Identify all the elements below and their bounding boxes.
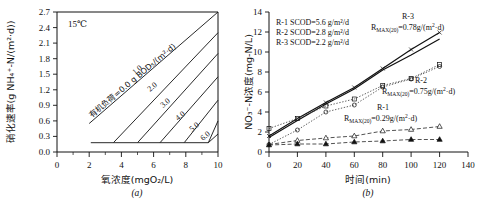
panel-b-annot-r3-rate: RMAX(20)=0.78g/(m2·d) xyxy=(371,22,444,34)
panel-b-ytick-0: 0 xyxy=(258,147,263,157)
panel-a-xticks: 0 2 4 6 8 10 xyxy=(55,152,223,170)
panel-a-label-4: 4.0 xyxy=(174,109,187,122)
panel-a-xtick-1: 2 xyxy=(87,160,92,170)
panel-a-ytick-0: 0.0 xyxy=(39,147,51,157)
figure-container: 0.0 0.3 0.6 0.9 1.2 1.5 1.8 2.1 2.4 2.7 xyxy=(0,0,483,199)
panel-a-ytick-1: 0.3 xyxy=(39,131,51,141)
panel-b-ytick-1: 2 xyxy=(258,127,263,137)
panel-a-xaxis-label: 氧浓度(mgO₂/L) xyxy=(101,174,173,185)
panel-b-annotation-r2: R-2 RMAX(20)=0.75g/(m2·d) xyxy=(382,76,455,98)
panel-b-plot: 0 2 4 6 8 10 12 14 0 20 4 xyxy=(243,0,483,199)
panel-a-line-labels: 有机负荷=0.0 g BOD₅/(m²·d) 1.0 2.0 3.0 4.0 5… xyxy=(87,41,212,142)
panel-a-xtick-2: 4 xyxy=(119,160,124,170)
panel-a-letter: (a) xyxy=(131,188,142,199)
panel-b-xaxis-label: 时间(min) xyxy=(345,174,390,185)
panel-a-ytick-3: 0.9 xyxy=(39,100,51,110)
panel-a-ytick-4: 1.2 xyxy=(39,85,50,95)
panel-a-xtick-0: 0 xyxy=(55,160,60,170)
panel-a-xtick-4: 8 xyxy=(184,160,189,170)
panel-b-xtick-6: 120 xyxy=(433,160,447,170)
panel-a-xtick-3: 6 xyxy=(151,160,156,170)
panel-a-yticks: 0.0 0.3 0.6 0.9 1.2 1.5 1.8 2.1 2.4 2.7 xyxy=(39,7,57,157)
panel-b-ytick-6: 12 xyxy=(253,27,262,37)
panel-b-ytick-3: 6 xyxy=(258,87,263,97)
panel-a-label-5: 5.0 xyxy=(188,120,201,133)
panel-a-ytick-7: 2.1 xyxy=(39,38,50,48)
panel-b-annot-r2-rate: RMAX(20)=0.75g/(m2·d) xyxy=(382,86,455,98)
panel-b-xtick-4: 80 xyxy=(378,160,388,170)
panel-b-legend-item-1: R-2 SCOD=2.8 g/m²/d xyxy=(276,28,349,37)
panel-b-series-r1-lower xyxy=(266,137,442,147)
panel-b-yticks: 0 2 4 6 8 10 12 14 xyxy=(253,7,269,157)
panel-a-ytick-8: 2.4 xyxy=(39,23,51,33)
panel-b-ytick-4: 8 xyxy=(258,67,263,77)
panel-a-ytick-6: 1.8 xyxy=(39,54,51,64)
panel-b-annot-r1-rate: RMAX(20)=0.29g/(m2·d) xyxy=(344,113,417,125)
panel-a-label-3: 3.0 xyxy=(159,96,172,109)
panel-a-ytick-5: 1.5 xyxy=(39,69,51,79)
panel-a-label-6: 6.0 xyxy=(199,129,212,142)
panel-b-annot-r1-name: R-1 xyxy=(377,103,389,112)
panel-b-annotation-r3: R-3 RMAX(20)=0.78g/(m2·d) xyxy=(371,12,444,34)
panel-a-yaxis-label: 硝化速率(g NH₄⁺-N/(m²·d)) xyxy=(5,21,16,144)
panel-b-legend: R-1 SCOD=5.6 g/m²/d R-2 SCOD=2.8 g/m²/d … xyxy=(276,18,349,47)
panel-a-temperature-label: 15℃ xyxy=(68,19,87,29)
panel-b-xtick-0: 0 xyxy=(267,160,272,170)
panel-b-legend-item-2: R-3 SCOD=2.2 g/m²/d xyxy=(276,38,349,47)
panel-a-ytick-2: 0.6 xyxy=(39,116,51,126)
panel-b-ytick-2: 4 xyxy=(258,107,263,117)
panel-b-xtick-3: 60 xyxy=(350,160,360,170)
panel-b-annotation-r1: R-1 RMAX(20)=0.29g/(m2·d) xyxy=(344,103,417,125)
panel-b-legend-item-0: R-1 SCOD=5.6 g/m²/d xyxy=(276,18,349,27)
panel-b-yaxis-label: NO₃⁻-N浓度(mg-N/L) xyxy=(243,34,254,130)
panel-b-xtick-5: 100 xyxy=(404,160,418,170)
panel-a-ytick-9: 2.7 xyxy=(39,7,51,17)
panel-b-annot-r3-name: R-3 xyxy=(402,12,414,21)
panel-b-xtick-2: 40 xyxy=(321,160,331,170)
panel-a: 0.0 0.3 0.6 0.9 1.2 1.5 1.8 2.1 2.4 2.7 xyxy=(0,0,243,199)
panel-b-xtick-7: 140 xyxy=(461,160,475,170)
panel-b-xticks: 0 20 40 60 80 100 120 140 xyxy=(267,152,476,170)
panel-a-curves xyxy=(89,12,218,143)
panel-b-letter: (b) xyxy=(362,188,373,199)
panel-b-ytick-7: 14 xyxy=(253,7,263,17)
panel-b-xtick-1: 20 xyxy=(293,160,303,170)
panel-b: 0 2 4 6 8 10 12 14 0 20 4 xyxy=(243,0,483,199)
panel-b-annot-r2-name: R-2 xyxy=(415,76,427,85)
panel-a-xtick-5: 10 xyxy=(214,160,224,170)
panel-b-ytick-5: 10 xyxy=(253,47,263,57)
panel-a-label-2: 2.0 xyxy=(146,80,159,93)
panel-a-plot: 0.0 0.3 0.6 0.9 1.2 1.5 1.8 2.1 2.4 2.7 xyxy=(0,0,243,199)
